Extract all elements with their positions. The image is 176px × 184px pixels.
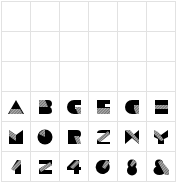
empty-cell[interactable] <box>89 32 118 62</box>
empty-cell[interactable] <box>2 62 31 92</box>
empty-cell[interactable] <box>89 62 118 92</box>
glyph-y-icon <box>152 128 170 146</box>
empty-cell[interactable] <box>60 32 89 62</box>
glyph-cell-o[interactable] <box>31 122 60 152</box>
glyph-cell-6[interactable] <box>89 152 118 182</box>
glyph-1-icon <box>7 158 25 176</box>
glyph-cell-ampersand[interactable] <box>147 152 174 182</box>
empty-cell[interactable] <box>2 2 31 32</box>
glyph-o-icon <box>36 128 54 146</box>
empty-cell[interactable] <box>60 2 89 32</box>
glyph-g-icon <box>123 98 141 116</box>
glyph-8-icon <box>123 158 141 176</box>
empty-cell[interactable] <box>147 62 174 92</box>
glyph-2-icon <box>36 158 54 176</box>
glyph-cell-r[interactable] <box>60 122 89 152</box>
glyph-grid <box>1 1 174 182</box>
empty-cell[interactable] <box>31 62 60 92</box>
glyph-h-icon <box>152 98 170 116</box>
glyph-cell-h[interactable] <box>147 92 174 122</box>
empty-cell[interactable] <box>31 2 60 32</box>
glyph-x-icon <box>123 128 141 146</box>
glyph-cell-4[interactable] <box>60 152 89 182</box>
glyph-cell-1[interactable] <box>2 152 31 182</box>
glyph-cell-c[interactable] <box>60 92 89 122</box>
glyph-cell-x[interactable] <box>118 122 147 152</box>
glyph-cell-g[interactable] <box>118 92 147 122</box>
empty-cell[interactable] <box>89 2 118 32</box>
empty-cell[interactable] <box>147 32 174 62</box>
glyph-s-icon <box>94 128 112 146</box>
empty-cell[interactable] <box>118 2 147 32</box>
glyph-c-icon <box>65 98 83 116</box>
glyph-cell-m[interactable] <box>2 122 31 152</box>
glyph-m-icon <box>7 128 25 146</box>
glyph-cell-a[interactable] <box>2 92 31 122</box>
glyph-e-icon <box>94 98 112 116</box>
empty-cell[interactable] <box>147 2 174 32</box>
glyph-a-icon <box>7 98 25 116</box>
glyph-cell-2[interactable] <box>31 152 60 182</box>
empty-cell[interactable] <box>118 62 147 92</box>
glyph-cell-8[interactable] <box>118 152 147 182</box>
empty-cell[interactable] <box>31 32 60 62</box>
glyph-6-icon <box>94 158 112 176</box>
empty-cell[interactable] <box>2 32 31 62</box>
empty-cell[interactable] <box>60 62 89 92</box>
glyph-cell-e[interactable] <box>89 92 118 122</box>
glyph-cell-y[interactable] <box>147 122 174 152</box>
glyph-4-icon <box>65 158 83 176</box>
empty-cell[interactable] <box>118 32 147 62</box>
glyph-cell-s[interactable] <box>89 122 118 152</box>
glyph-cell-b[interactable] <box>31 92 60 122</box>
glyph-ampersand-icon <box>152 158 170 176</box>
glyph-b-icon <box>36 98 54 116</box>
glyph-r-icon <box>65 128 83 146</box>
